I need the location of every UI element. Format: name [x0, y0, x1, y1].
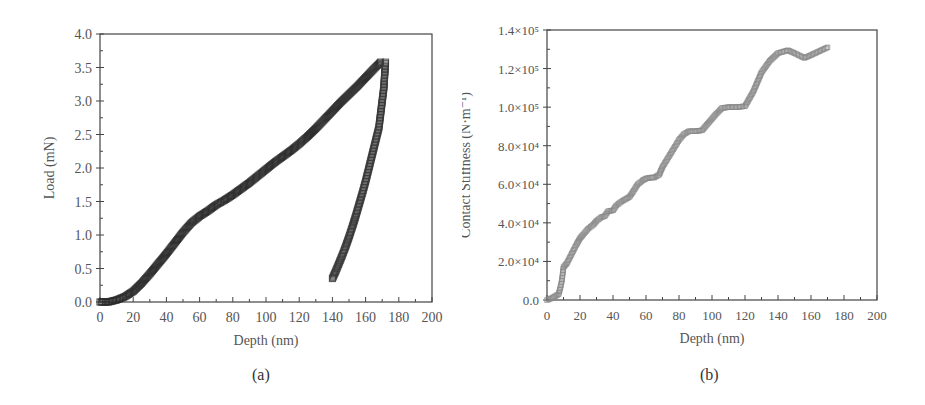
y-tick-label: 1.0: [75, 228, 93, 243]
y-tick-label: 1.4×10⁵: [498, 23, 539, 38]
y-tick-label: 8.0×10⁴: [498, 139, 540, 154]
y-tick-label: 2.5: [75, 128, 93, 143]
x-tick-label: 200: [422, 310, 443, 325]
y-tick-label: 0.0: [523, 293, 539, 308]
x-tick-label: 180: [388, 310, 409, 325]
plot-frame: [547, 30, 877, 300]
x-tick-label: 100: [702, 308, 722, 323]
load-depth-chart: 0204060801001201401601802000.00.51.01.52…: [0, 0, 462, 405]
x-tick-label: 60: [193, 310, 207, 325]
caption-a: (a): [252, 366, 270, 384]
y-tick-label: 2.0×10⁴: [498, 254, 540, 269]
y-tick-label: 1.0×10⁵: [498, 100, 539, 115]
y-tick-label: 0.5: [75, 262, 93, 277]
y-tick-label: 1.2×10⁵: [498, 62, 539, 77]
stiffness-depth-chart: 0204060801001201401601802000.02.0×10⁴4.0…: [462, 0, 925, 405]
x-tick-label: 140: [768, 308, 788, 323]
x-tick-label: 0: [544, 308, 551, 323]
x-tick-label: 20: [126, 310, 140, 325]
y-axis-label: Contact Stiffness (N·m⁻¹): [462, 92, 474, 238]
y-tick-label: 0.0: [75, 295, 93, 310]
x-tick-label: 40: [607, 308, 620, 323]
x-tick-label: 140: [322, 310, 343, 325]
chart-panel-a: 0204060801001201401601802000.00.51.01.52…: [0, 0, 462, 405]
data-series: [97, 59, 389, 305]
x-tick-label: 180: [834, 308, 854, 323]
x-tick-label: 120: [735, 308, 755, 323]
data-series: [545, 45, 830, 302]
x-tick-label: 0: [97, 310, 104, 325]
y-tick-label: 6.0×10⁴: [498, 177, 540, 192]
y-tick-label: 4.0×10⁴: [498, 216, 540, 231]
y-tick-label: 2.0: [75, 161, 93, 176]
x-tick-label: 80: [226, 310, 240, 325]
y-tick-label: 1.5: [75, 195, 93, 210]
x-tick-label: 120: [289, 310, 310, 325]
x-axis-label: Depth (nm): [680, 331, 745, 347]
x-tick-label: 60: [640, 308, 653, 323]
x-tick-label: 20: [574, 308, 587, 323]
y-axis-label: Load (mN): [42, 136, 58, 199]
chart-panel-b: 0204060801001201401601802000.02.0×10⁴4.0…: [462, 0, 925, 405]
x-tick-label: 160: [801, 308, 821, 323]
x-tick-label: 40: [159, 310, 173, 325]
caption-b: (b): [700, 366, 719, 384]
x-tick-label: 200: [867, 308, 887, 323]
x-axis-label: Depth (nm): [234, 333, 299, 349]
x-tick-label: 80: [673, 308, 686, 323]
y-tick-label: 3.0: [75, 94, 93, 109]
y-tick-label: 4.0: [75, 27, 93, 42]
x-tick-label: 160: [355, 310, 376, 325]
y-tick-label: 3.5: [75, 61, 93, 76]
x-tick-label: 100: [256, 310, 277, 325]
